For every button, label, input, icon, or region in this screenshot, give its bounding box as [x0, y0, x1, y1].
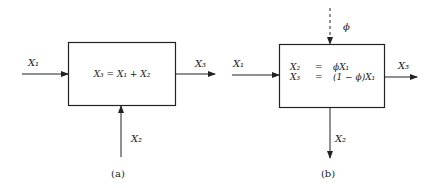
caption-b: (b) [321, 168, 335, 179]
panel-b: ϕ X₁ X₃ X₂ X₂ = ϕX₁ X₃ = (1 − ϕ)X₁ (b) [232, 8, 417, 179]
label-x1: X₁ [27, 57, 39, 68]
eq1-op: = [315, 62, 323, 72]
diagram-canvas: X₁ X₃ X₂ X₃ = X₁ + X₂ (a) ϕ X₁ X₃ X₂ X₂ … [0, 0, 438, 188]
eq2-lhs: X₃ [289, 72, 300, 82]
label-x1: X₁ [232, 58, 244, 69]
label-x2: X₂ [130, 133, 142, 144]
box-equation: X₃ = X₁ + X₂ [93, 69, 151, 79]
label-x2: X₂ [334, 133, 346, 144]
eq2-rhs: (1 − ϕ)X₁ [333, 72, 375, 82]
label-x3: X₃ [397, 60, 409, 71]
eq2-op: = [315, 72, 323, 82]
eq1-rhs: ϕX₁ [333, 62, 349, 72]
label-x3: X₃ [194, 58, 206, 69]
eq1-lhs: X₂ [289, 62, 300, 72]
caption-a: (a) [111, 168, 125, 179]
label-phi: ϕ [343, 21, 350, 32]
panel-a: X₁ X₃ X₂ X₃ = X₁ + X₂ (a) [22, 43, 215, 180]
